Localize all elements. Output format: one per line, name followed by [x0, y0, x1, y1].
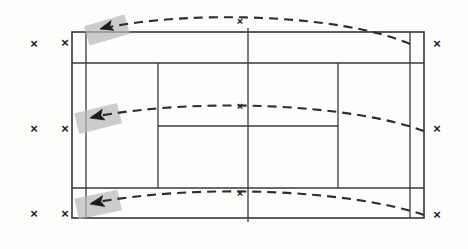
x-marker-center-top: ×	[237, 15, 243, 27]
trajectory-bottom	[92, 191, 424, 215]
x-marker-right-bottom: ×	[433, 207, 441, 222]
court-outline-group	[72, 28, 424, 222]
x-marker-center-middle: ×	[237, 100, 243, 112]
trajectory-top	[104, 17, 410, 44]
trajectory-middle	[92, 106, 424, 131]
x-marker-inner-left-middle: ×	[61, 121, 69, 136]
x-marker-center-bottom: ×	[237, 187, 243, 199]
x-marker-inner-left-top: ×	[61, 35, 69, 50]
trajectories-group	[92, 17, 424, 215]
x-marker-outer-left-top: ×	[30, 36, 38, 51]
court-svg: × × × × × × × × × × × ×	[0, 0, 468, 249]
x-marker-outer-left-bottom: ×	[30, 206, 38, 221]
tennis-court-diagram: × × × × × × × × × × × ×	[0, 0, 468, 249]
x-marker-right-middle: ×	[433, 121, 441, 136]
x-marker-right-top: ×	[433, 36, 441, 51]
impact-highlight-top	[84, 15, 130, 46]
x-marker-inner-left-bottom: ×	[61, 206, 69, 221]
x-marker-outer-left-middle: ×	[30, 121, 38, 136]
